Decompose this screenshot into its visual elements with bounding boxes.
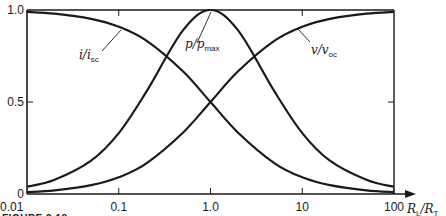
x-tick-label: 0.1 (110, 200, 127, 214)
x-tick-label: 100 (384, 200, 404, 214)
tick-labels: 0.010.11.01010000.51.0 (0, 3, 404, 214)
x-tick-label: 0.01 (0, 200, 24, 214)
label-i-isc: i/isc (79, 48, 99, 64)
leader-i-isc (102, 30, 121, 51)
y-tick-label: 0 (17, 187, 24, 201)
curve-v-v-oc (27, 12, 394, 192)
x-tick-label: 10 (296, 200, 310, 214)
chart: 0.010.11.01010000.51.0 i/isc p/pmax v/vo… (0, 0, 446, 216)
x-axis-arrow-icon (405, 190, 416, 198)
figure-caption: FIGURE 2.18 (2, 213, 68, 216)
label-v-voc: v/voc (311, 43, 337, 59)
curves (27, 10, 394, 192)
x-axis-title: RL/RT (406, 202, 439, 216)
curve-p-p-max (27, 10, 394, 187)
x-tick-label: 1.0 (202, 200, 219, 214)
label-p-pmax: p/pmax (185, 37, 220, 53)
y-tick-label: 1.0 (7, 3, 24, 17)
leader-v-voc (297, 28, 310, 42)
y-tick-label: 0.5 (7, 95, 24, 109)
